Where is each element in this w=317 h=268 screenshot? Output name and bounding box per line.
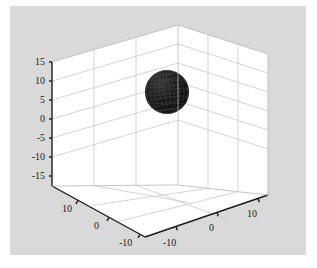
z-tick-label: 5	[27, 95, 45, 105]
y-tick-label: 0	[94, 221, 99, 231]
x-tick-label: -10	[163, 238, 176, 248]
z-tick-label: 15	[27, 57, 45, 67]
y-tick-label: -10	[119, 238, 132, 248]
axes-wall-right	[178, 25, 268, 195]
z-tick-label: 0	[27, 114, 45, 124]
axis-z-line	[49, 62, 52, 186]
x-tick-label: 0	[209, 223, 214, 233]
plot-3d-axes	[0, 0, 317, 268]
x-tick-label: 10	[247, 209, 257, 219]
z-tick-label: -15	[21, 171, 45, 181]
z-tick-label: -5	[24, 133, 45, 143]
z-tick-label: -10	[21, 152, 45, 162]
z-tick-label: 10	[27, 76, 45, 86]
y-tick-label: 10	[62, 204, 72, 214]
screenshot-root: 15 10 5 0 -5 -10 -15 10 0 -10 -10 0 10	[0, 0, 317, 268]
